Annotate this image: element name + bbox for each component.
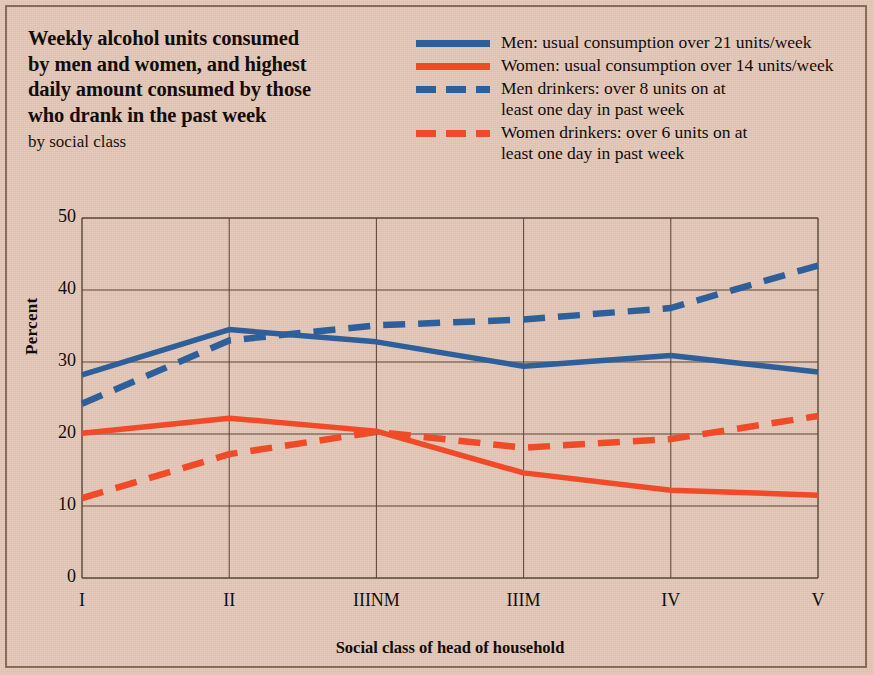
chart-canvas: [0, 0, 874, 675]
chart-series-line: [82, 416, 818, 498]
chart-series-line: [82, 418, 818, 495]
plot-area: Percent Social class of head of househol…: [0, 0, 874, 675]
chart-series-line: [82, 266, 818, 404]
figure-root: Weekly alcohol units consumed by men and…: [0, 0, 874, 675]
chart-series-line: [82, 330, 818, 375]
